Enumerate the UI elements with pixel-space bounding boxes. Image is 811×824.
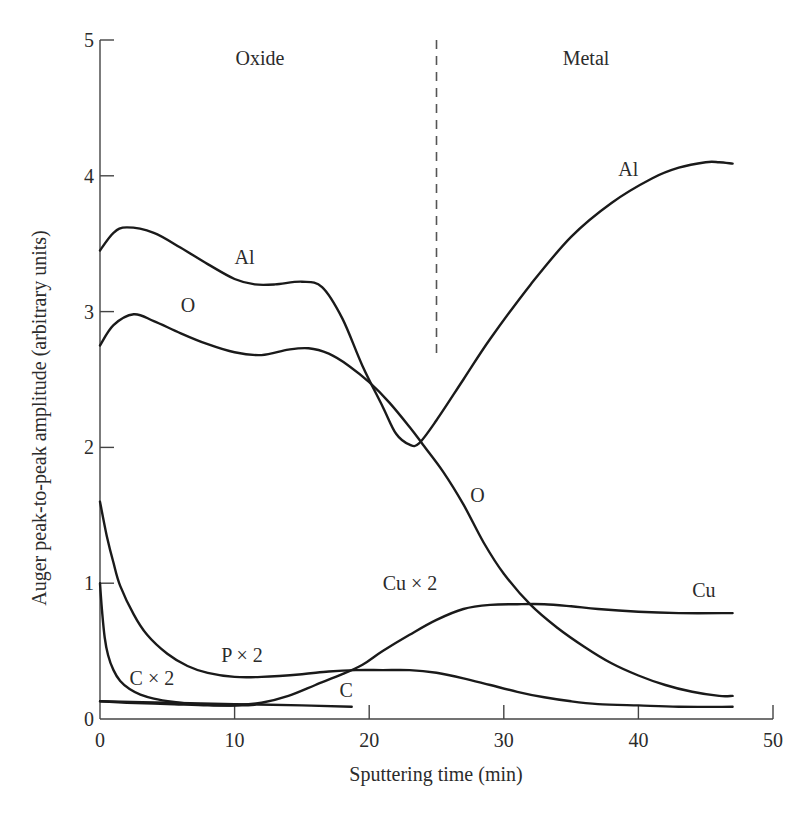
- auger-depth-profile-chart: 012345 01020304050 AlAlOOCu × 2CuP × 2C …: [0, 0, 811, 824]
- curve-cu-2-cu: [100, 604, 733, 706]
- curve-o: [100, 314, 733, 696]
- region-label-oxide: Oxide: [236, 47, 285, 69]
- x-tick-label: 40: [628, 729, 648, 751]
- series-label-cu-2-cu: Cu: [692, 579, 715, 601]
- x-tick-label: 20: [359, 729, 379, 751]
- y-axis-title: Auger peak-to-peak amplitude (arbitrary …: [28, 230, 51, 605]
- y-tick-label: 3: [84, 301, 94, 323]
- series-label-c: C: [340, 679, 353, 701]
- x-axis-title: Sputtering time (min): [349, 763, 522, 786]
- series-label-al: Al: [235, 246, 255, 268]
- x-tick-label: 50: [763, 729, 783, 751]
- series-label-cu-2-cu: Cu × 2: [383, 572, 438, 594]
- x-ticks: 01020304050: [95, 705, 783, 751]
- y-tick-label: 4: [84, 165, 94, 187]
- x-tick-label: 30: [494, 729, 514, 751]
- y-tick-label: 2: [84, 436, 94, 458]
- series-label-o: O: [470, 484, 484, 506]
- x-tick-label: 10: [225, 729, 245, 751]
- x-tick-label: 0: [95, 729, 105, 751]
- plot-area: 012345 01020304050 AlAlOOCu × 2CuP × 2C …: [84, 29, 783, 751]
- y-tick-label: 1: [84, 572, 94, 594]
- series-curves: [100, 162, 733, 707]
- region-label-metal: Metal: [563, 47, 610, 69]
- series-label-al: Al: [618, 158, 638, 180]
- y-tick-label: 0: [84, 708, 94, 730]
- series-label-o: O: [181, 294, 195, 316]
- y-ticks: 012345: [84, 29, 114, 730]
- y-tick-label: 5: [84, 29, 94, 51]
- series-labels: AlAlOOCu × 2CuP × 2C × 2C: [130, 158, 716, 701]
- series-label-p-2: P × 2: [221, 644, 263, 666]
- series-label-c-2: C × 2: [130, 667, 175, 689]
